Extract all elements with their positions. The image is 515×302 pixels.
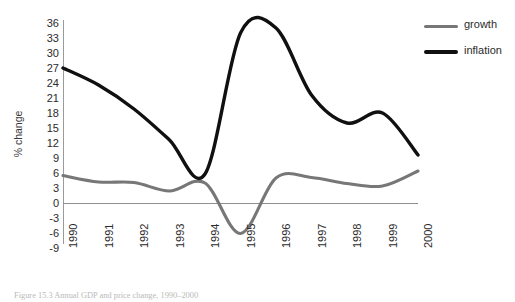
legend-label-inflation: inflation [464, 44, 502, 56]
figure-container: % change 3633302724211815129630-3-6-9 19… [0, 0, 515, 302]
x-tick-label: 1997 [317, 204, 328, 248]
x-tick-label: 1999 [388, 204, 399, 248]
legend-item-inflation[interactable]: inflation [424, 40, 512, 66]
x-tick-label: 1993 [175, 204, 186, 248]
figure-caption: Figure 15.3 Annual GDP and price change,… [14, 291, 504, 301]
chart-legend: growth inflation [424, 14, 512, 66]
growth-line-swatch [424, 25, 458, 28]
x-tick-label: 2000 [423, 204, 434, 248]
x-tick-label: 1996 [281, 204, 292, 248]
inflation-line-swatch [424, 50, 458, 54]
x-tick-label: 1994 [210, 204, 221, 248]
legend-item-growth[interactable]: growth [424, 14, 512, 40]
x-tick-label: 1991 [104, 204, 115, 248]
x-tick-label: 1990 [68, 204, 79, 248]
x-tick-label: 1998 [352, 204, 363, 248]
x-tick-label: 1995 [246, 204, 257, 248]
legend-label-growth: growth [464, 18, 497, 30]
x-tick-label: 1992 [139, 204, 150, 248]
